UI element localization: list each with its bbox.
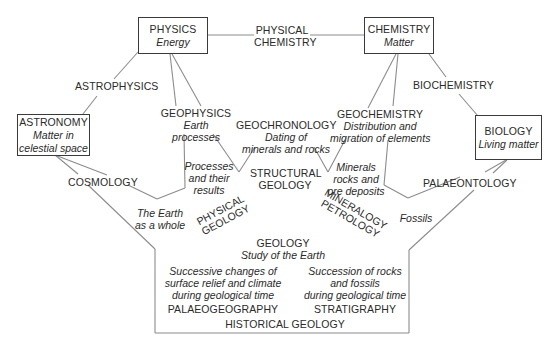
palaeogeography-block: Successive changes of surface relief and… [163, 265, 283, 315]
stratigraphy-line3: during geological time [300, 289, 410, 301]
physics-title: PHYSICS [150, 23, 197, 36]
processes-line3: results [184, 184, 234, 196]
biochemistry-label: BIOCHEMISTRY [413, 79, 493, 91]
chemistry-title: CHEMISTRY [368, 23, 431, 36]
structural-geology-label: STRUCTURAL GEOLOGY [250, 167, 320, 191]
astronomy-subtitle-line1: Matter in [33, 129, 74, 142]
stratigraphy-title: STRATIGRAPHY [300, 303, 410, 315]
palaeontology-label: PALAEONTOLOGY [423, 177, 503, 189]
astrophysics-label: ASTROPHYSICS [75, 80, 155, 92]
chemistry-subtitle: Matter [384, 36, 414, 49]
earth-whole-line1: The Earth [133, 207, 187, 219]
astronomy-subtitle-line2: celestial space [19, 142, 88, 155]
geochemistry-line1: Distribution and [330, 120, 430, 132]
processes-line2: and their [184, 172, 234, 184]
physical-chemistry-line1: PHYSICAL [254, 24, 310, 36]
geochronology-label: GEOCHRONOLOGY Dating of minerals and roc… [236, 119, 336, 155]
geochemistry-title: GEOCHEMISTRY [330, 108, 430, 120]
geophysics-line2: processes [160, 131, 232, 143]
stratigraphy-block: Succession of rocks and fossils during g… [300, 265, 410, 315]
fossils-label: Fossils [396, 212, 436, 224]
minerals-line1: Minerals [325, 161, 387, 173]
physics-box: PHYSICS Energy [138, 17, 208, 54]
stratigraphy-line1: Succession of rocks [300, 265, 410, 277]
geophysics-label: GEOPHYSICS Earth processes [160, 107, 232, 143]
geology-subtitle: Study of the Earth [233, 249, 333, 261]
geochemistry-line2: migration of elements [330, 132, 430, 144]
cosmology-label: COSMOLOGY [68, 176, 136, 188]
stratigraphy-line2: and fossils [300, 277, 410, 289]
physical-chemistry-label: PHYSICAL CHEMISTRY [254, 24, 310, 48]
palaeogeography-line1: Successive changes of [163, 265, 283, 277]
geochronology-line2: minerals and rocks [236, 143, 336, 155]
biology-title: BIOLOGY [485, 125, 533, 138]
processes-line1: Processes [184, 160, 234, 172]
historical-geology-label: HISTORICAL GEOLOGY [220, 318, 350, 330]
geophysics-line1: Earth [160, 119, 232, 131]
biology-subtitle: Living matter [478, 138, 538, 151]
geochronology-title: GEOCHRONOLOGY [236, 119, 336, 131]
physical-chemistry-line2: CHEMISTRY [254, 36, 310, 48]
geology-title: GEOLOGY [233, 237, 333, 249]
earth-whole-line2: as a whole [133, 219, 187, 231]
palaeogeography-line2: surface relief and climate [163, 277, 283, 289]
chemistry-box: CHEMISTRY Matter [364, 17, 434, 54]
astronomy-box: ASTRONOMY Matter in celestial space [17, 114, 90, 156]
geochemistry-label: GEOCHEMISTRY Distribution and migration … [330, 108, 430, 144]
palaeogeography-line3: during geological time [163, 289, 283, 301]
physics-subtitle: Energy [156, 36, 189, 49]
structural-geology-line1: STRUCTURAL [250, 167, 320, 179]
astronomy-title: ASTRONOMY [19, 116, 88, 129]
palaeogeography-title: PALAEOGEOGRAPHY [163, 303, 283, 315]
earth-whole-label: The Earth as a whole [133, 207, 187, 231]
processes-label: Processes and their results [184, 160, 234, 196]
geology-center-label: GEOLOGY Study of the Earth [233, 237, 333, 261]
minerals-line2: rocks and [325, 173, 387, 185]
biology-box: BIOLOGY Living matter [475, 115, 542, 160]
geophysics-title: GEOPHYSICS [160, 107, 232, 119]
structural-geology-line2: GEOLOGY [250, 179, 320, 191]
geochronology-line1: Dating of [236, 131, 336, 143]
